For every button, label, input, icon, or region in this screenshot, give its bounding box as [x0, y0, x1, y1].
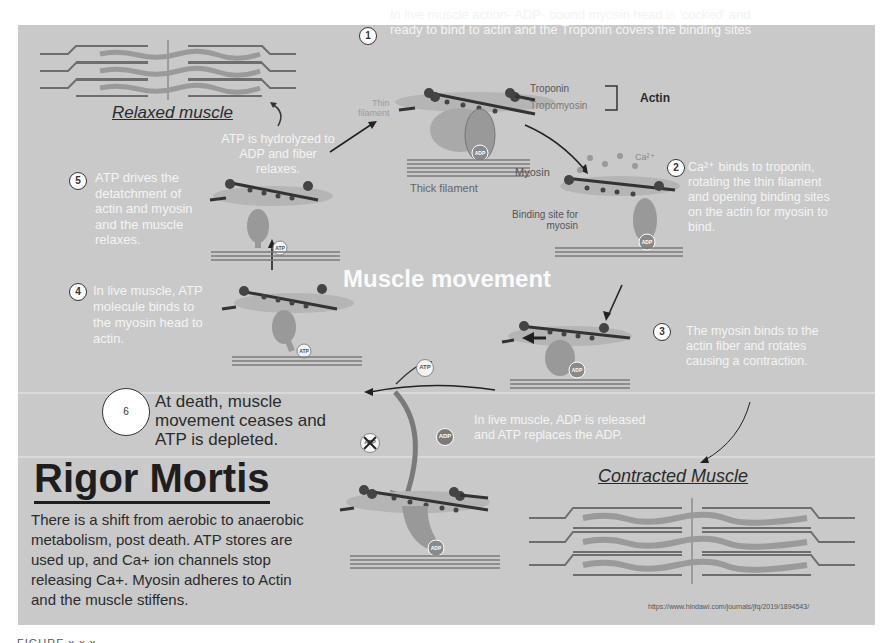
- step-5-line: relaxes.: [95, 232, 193, 248]
- step-2-line: bind.: [688, 220, 830, 235]
- step-5-diagram: ATP: [208, 178, 343, 263]
- step-5-text: ATP drives the detatchment of actin and …: [95, 170, 193, 248]
- contracted-muscle-label: Contracted Muscle: [598, 466, 748, 487]
- step-5-line: and the muscle: [95, 217, 193, 233]
- rigor-line: There is a shift from aerobic to anaerob…: [31, 510, 304, 530]
- calcium-label: Ca²⁺: [635, 152, 655, 162]
- step-5-line: detatchment of: [95, 186, 193, 202]
- step-4-number: 4: [69, 283, 87, 301]
- adp-released-annotation: In live muscle, ADP is released and ATP …: [474, 413, 645, 443]
- step-3-line: causing a contraction.: [686, 354, 819, 369]
- step-5-line: ATP drives the: [95, 170, 193, 186]
- step-3-diagram: ADP: [500, 320, 640, 400]
- rigor-line: releasing Ca+. Myosin adheres to Actin: [31, 570, 304, 590]
- figure-title: Muscle movement: [343, 265, 551, 293]
- step-6-number: 6: [102, 388, 150, 436]
- depleted-atp-icon: ATP: [360, 433, 380, 453]
- figure-caption: FIGURE x.x.x: [17, 636, 96, 643]
- step-3-text: The myosin binds to the actin fiber and …: [686, 324, 819, 369]
- svg-text:ADP: ADP: [431, 545, 442, 551]
- step-2-diagram: Ca²⁺ ADP: [555, 150, 685, 260]
- rigor-line: metabolism, post death. ATP stores are: [31, 530, 304, 550]
- contracted-sarcomere-diagram: [527, 498, 857, 586]
- step-4-text: In live muscle, ATP molecule binds to th…: [93, 283, 203, 347]
- atp-badge: ATP: [416, 359, 434, 377]
- svg-text:ATP: ATP: [275, 245, 285, 251]
- source-url[interactable]: https://www.hindawi.com/journals/jfq/201…: [648, 603, 809, 610]
- step-2-line: and opening binding sites: [688, 190, 830, 205]
- rigor-line: and the muscle stiffens.: [31, 590, 304, 610]
- rigor-crossbridge-diagram: ADP: [338, 480, 503, 575]
- step-2-line: on the actin for myosin to: [688, 205, 830, 220]
- annotation-line: In live muscle, ADP is released: [474, 413, 645, 428]
- step-4-line: In live muscle, ATP: [93, 283, 203, 299]
- step-2-text: Ca²⁺ binds to troponin, rotating the thi…: [688, 160, 830, 235]
- step-4-line: actin.: [93, 331, 203, 347]
- step-3-line: The myosin binds to the: [686, 324, 819, 339]
- step-6-line: ATP is depleted.: [155, 430, 326, 449]
- step-5-number: 5: [69, 172, 87, 190]
- step-2-line: rotating the thin filament: [688, 175, 830, 190]
- step-4-diagram: ATP: [222, 285, 364, 370]
- step-2-line: Ca²⁺ binds to troponin,: [688, 160, 830, 175]
- step-5-line: actin and myosin: [95, 201, 193, 217]
- label-line: Binding site for: [512, 209, 578, 220]
- rigor-line: used up, and Ca+ ion channels stop: [31, 550, 304, 570]
- svg-text:ATP: ATP: [299, 348, 309, 354]
- svg-text:ADP: ADP: [642, 239, 653, 245]
- step-4-line: molecule binds to: [93, 299, 203, 315]
- step-3-number: 3: [653, 323, 671, 341]
- step-4-line: the myosin head to: [93, 315, 203, 331]
- label-line: myosin: [512, 220, 578, 231]
- rigor-mortis-description: There is a shift from aerobic to anaerob…: [31, 510, 304, 610]
- rigor-mortis-title: Rigor Mortis: [34, 455, 270, 504]
- step-6-text: At death, muscle movement ceases and ATP…: [155, 392, 326, 449]
- step-6-line: movement ceases and: [155, 411, 326, 430]
- step-6-line: At death, muscle: [155, 392, 326, 411]
- step-3-line: actin fiber and rotates: [686, 339, 819, 354]
- binding-site-label: Binding site for myosin: [512, 209, 578, 231]
- adp-badge: ADP: [436, 428, 454, 446]
- annotation-line: and ATP replaces the ADP.: [474, 428, 645, 443]
- svg-text:ADP: ADP: [572, 367, 583, 373]
